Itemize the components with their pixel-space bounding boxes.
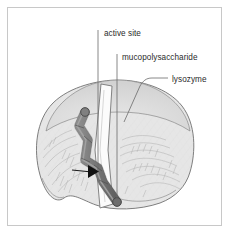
- figure-canvas: active site mucopolysaccharide lysozyme: [0, 0, 230, 240]
- lysozyme-figure: active site mucopolysaccharide lysozyme: [0, 0, 230, 240]
- mucopolysaccharide-chain-top-end: [81, 108, 90, 117]
- label-mucopolysaccharide: mucopolysaccharide: [122, 53, 198, 62]
- label-lysozyme: lysozyme: [172, 75, 207, 84]
- label-active-site: active site: [104, 29, 141, 38]
